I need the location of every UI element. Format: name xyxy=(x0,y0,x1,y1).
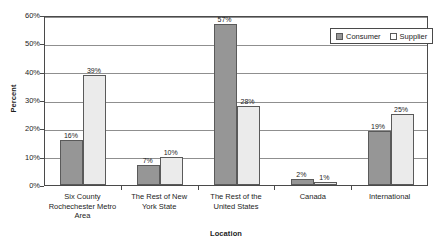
bar-chart: Percent 0%10%20%30%40%50%60% 16%39%7%10%… xyxy=(0,0,442,248)
y-axis-tick-label: 10% xyxy=(14,154,40,162)
legend-label: Consumer xyxy=(346,32,381,41)
y-axis-tick-label: 20% xyxy=(14,125,40,133)
bar-value-label: 25% xyxy=(384,106,419,114)
x-axis-tick-mark xyxy=(274,186,275,190)
bar-consumer-0 xyxy=(60,140,83,185)
x-axis-tick-mark xyxy=(198,186,199,190)
chart-legend: ConsumerSupplier xyxy=(330,28,433,44)
bar-value-label: 7% xyxy=(130,157,165,165)
x-axis-tick-mark xyxy=(121,186,122,190)
bar-value-label: 28% xyxy=(230,98,265,106)
bar-supplier-2 xyxy=(237,106,260,185)
bar-value-label: 39% xyxy=(76,67,111,75)
bar-value-label: 19% xyxy=(361,123,396,131)
legend-label: Supplier xyxy=(400,32,428,41)
legend-swatch-icon xyxy=(336,33,343,40)
bar-value-label: 57% xyxy=(207,16,242,24)
bar-supplier-0 xyxy=(83,75,106,186)
bar-value-label: 16% xyxy=(53,132,88,140)
x-axis-category-label: International xyxy=(339,192,440,202)
y-axis-tick-label: 60% xyxy=(14,12,40,20)
y-axis-tick-label: 30% xyxy=(14,97,40,105)
x-axis-tick-mark xyxy=(351,186,352,190)
bar-consumer-1 xyxy=(137,165,160,185)
y-axis-tick-label: 40% xyxy=(14,69,40,77)
x-axis-title: Location xyxy=(5,229,442,238)
y-axis-tick-label: 50% xyxy=(14,40,40,48)
y-axis-tick-label: 0% xyxy=(14,182,40,190)
bar-value-label: 10% xyxy=(153,149,188,157)
y-axis-tick-mark xyxy=(40,186,44,187)
legend-entry-supplier[interactable]: Supplier xyxy=(390,32,428,41)
bar-consumer-4 xyxy=(368,131,391,185)
bar-supplier-3 xyxy=(314,182,337,185)
legend-entry-consumer[interactable]: Consumer xyxy=(336,32,381,41)
bar-value-label: 1% xyxy=(307,174,342,182)
legend-swatch-icon xyxy=(390,33,397,40)
